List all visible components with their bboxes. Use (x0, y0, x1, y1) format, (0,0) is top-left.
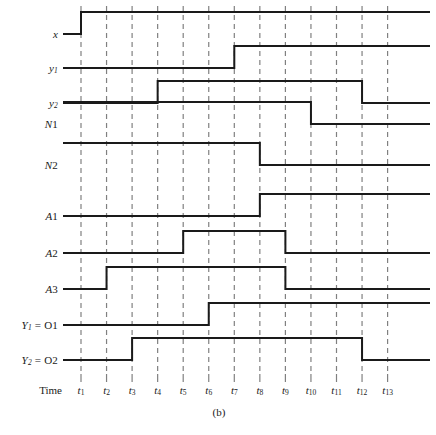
signal-label-n1: N1 (45, 118, 58, 130)
signal-label-y2: y2 (49, 97, 58, 110)
waveform-x (63, 12, 430, 34)
waveform-a3 (63, 267, 430, 289)
time-label-t11: t11 (331, 384, 341, 397)
time-label-t13: t13 (382, 384, 393, 397)
signal-label-x: x (53, 28, 58, 40)
waveform-n1 (63, 102, 430, 124)
signal-waveforms (63, 12, 430, 360)
figure-caption: (b) (213, 406, 226, 418)
signal-label-y1-o1: Y1 = O1 (22, 319, 58, 332)
time-label-t4: t4 (154, 384, 161, 397)
waveform-y1-o1 (63, 303, 430, 325)
time-label-t1: t1 (78, 384, 85, 397)
waveform-a1 (63, 194, 430, 216)
signal-label-a3: A3 (45, 283, 58, 295)
time-label-t12: t12 (357, 384, 368, 397)
waveform-y1 (63, 46, 430, 68)
waveform-y2 (63, 81, 430, 103)
time-label-t6: t6 (205, 384, 212, 397)
time-label-t3: t3 (129, 384, 136, 397)
time-label-t7: t7 (231, 384, 238, 397)
time-label-t9: t9 (282, 384, 289, 397)
signal-label-a1: A1 (45, 210, 58, 222)
time-axis-label: Time (39, 384, 62, 396)
waveform-y2-o2 (63, 338, 430, 360)
time-label-t2: t2 (103, 384, 110, 397)
signal-label-y2-o2: Y2 = O2 (22, 354, 58, 367)
time-label-t8: t8 (256, 384, 263, 397)
timing-diagram-figure: xy1y2N1N2A1A2A3Y1 = O1Y2 = O2 t1t2t3t4t5… (0, 0, 436, 435)
signal-label-a2: A2 (45, 247, 58, 259)
signal-label-n2: N2 (45, 159, 58, 171)
waveform-n2 (63, 143, 430, 165)
time-label-t5: t5 (180, 384, 187, 397)
signal-label-y1: y1 (49, 62, 58, 75)
waveform-a2 (63, 231, 430, 253)
time-label-t10: t10 (306, 384, 317, 397)
timing-diagram-canvas (0, 0, 436, 435)
time-axis-ticks (81, 374, 388, 382)
